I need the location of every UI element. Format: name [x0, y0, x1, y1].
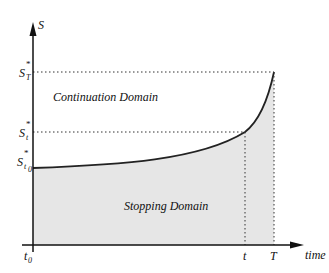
svg-text:t: t	[24, 162, 27, 171]
svg-text:S: S	[19, 66, 25, 80]
svg-text:*: *	[26, 59, 31, 69]
x-axis-label: time	[305, 248, 326, 262]
continuation-domain-label: Continuation Domain	[53, 90, 158, 104]
x-tick-T: T	[270, 249, 278, 263]
optimal-stopping-diagram: S time S * T S * t S * t 0 t 0 t T Conti…	[0, 0, 329, 273]
y-tick-S-t: S * t	[19, 119, 31, 142]
svg-text:t: t	[26, 133, 29, 142]
y-tick-S-t0: S * t 0	[17, 148, 32, 174]
y-axis-label: S	[38, 18, 44, 32]
svg-text:S: S	[17, 155, 23, 169]
svg-text:T: T	[26, 73, 31, 82]
svg-text:0: 0	[28, 165, 32, 174]
x-tick-t: t	[243, 249, 247, 263]
svg-text:S: S	[19, 126, 25, 140]
x-tick-t0: t 0	[24, 249, 32, 265]
svg-text:*: *	[24, 148, 29, 158]
y-tick-S-T: S * T	[19, 59, 31, 82]
y-axis-arrow-icon	[30, 22, 37, 36]
svg-text:*: *	[26, 119, 31, 129]
stopping-domain-label: Stopping Domain	[124, 199, 208, 213]
x-axis-arrow-icon	[290, 242, 304, 249]
svg-text:0: 0	[28, 256, 32, 265]
